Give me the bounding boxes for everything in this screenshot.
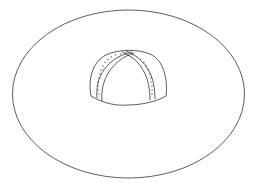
right-seam (122, 52, 150, 100)
hat-drawing (0, 0, 257, 184)
brim-ellipse (13, 10, 245, 178)
